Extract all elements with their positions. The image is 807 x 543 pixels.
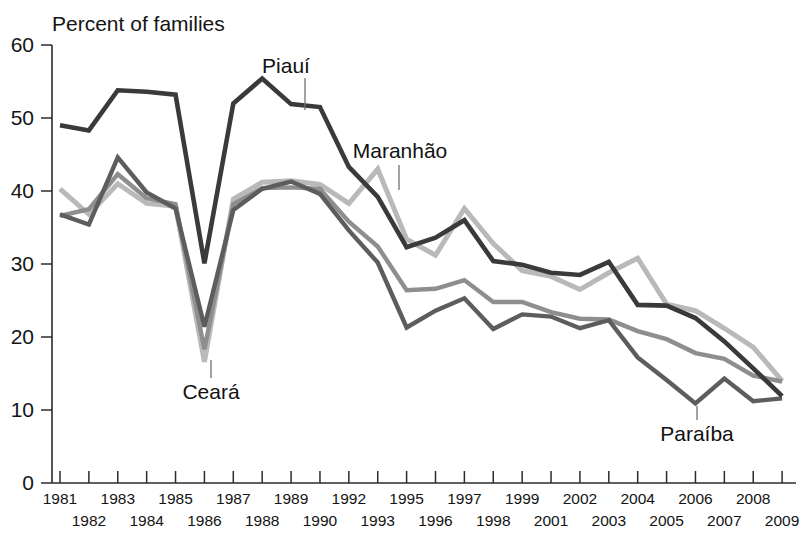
line-chart: Percent of families 0102030405060 198119… (0, 0, 807, 543)
x-axis-tick-label: 2006 (678, 490, 712, 507)
y-axis-title: Percent of families (52, 12, 225, 35)
x-axis-tick-label: 2003 (592, 512, 626, 529)
x-axis-tick-label: 1997 (447, 490, 481, 507)
y-axis-tick-label: 50 (11, 106, 34, 129)
x-axis-tick-label: 2004 (620, 490, 655, 507)
series-lines (60, 79, 782, 404)
x-axis-tick-label: 1992 (332, 490, 366, 507)
x-axis-tick-label: 2007 (707, 512, 741, 529)
chart-container: Percent of families 0102030405060 198119… (0, 0, 807, 543)
x-axis-tick-label: 2009 (765, 512, 799, 529)
x-axis-tick-label: 1984 (129, 512, 164, 529)
piaui-label: Piauí (262, 54, 310, 77)
series-line-piaui (60, 79, 782, 397)
y-axis-tick-labels: 0102030405060 (11, 33, 34, 494)
ceara-label: Ceará (182, 380, 240, 403)
x-axis-tick-label: 2002 (563, 490, 597, 507)
x-axis-tick-label: 1993 (360, 512, 394, 529)
y-axis-tick-label: 30 (11, 252, 34, 275)
x-axis-tick-label: 1989 (274, 490, 308, 507)
x-axis-tick-label: 1998 (476, 512, 510, 529)
x-axis-tick-label: 1995 (389, 490, 423, 507)
y-axis-tick-label: 0 (22, 471, 34, 494)
x-axis-tick-label: 1987 (216, 490, 250, 507)
x-axis-tick-label: 1990 (303, 512, 338, 529)
x-axis-tick-label: 2005 (649, 512, 683, 529)
paraiba-label: Paraíba (660, 422, 734, 445)
x-axis-tick-label: 1996 (418, 512, 452, 529)
x-axis-tick-label: 1988 (245, 512, 279, 529)
x-axis-tick-label: 1986 (187, 512, 221, 529)
x-axis-ticks (60, 471, 782, 483)
x-axis-tick-labels: 1981198219831984198519861987198819891990… (43, 490, 800, 529)
series-annotations: Piauí Maranhão Ceará Paraíba (182, 54, 734, 445)
x-axis-tick-label: 1982 (72, 512, 106, 529)
y-axis-tick-label: 60 (11, 33, 34, 56)
y-axis-tick-label: 40 (11, 179, 34, 202)
x-axis-tick-label: 2001 (534, 512, 568, 529)
x-axis-tick-label: 2008 (736, 490, 770, 507)
x-axis-tick-label: 1999 (505, 490, 539, 507)
y-axis-ticks (41, 45, 52, 483)
x-axis-tick-label: 1983 (101, 490, 135, 507)
maranhao-label: Maranhão (353, 139, 448, 162)
x-axis-tick-label: 1981 (43, 490, 77, 507)
x-axis-tick-label: 1985 (158, 490, 192, 507)
y-axis-tick-label: 20 (11, 325, 34, 348)
series-line-paraiba (60, 157, 782, 403)
y-axis-tick-label: 10 (11, 398, 34, 421)
